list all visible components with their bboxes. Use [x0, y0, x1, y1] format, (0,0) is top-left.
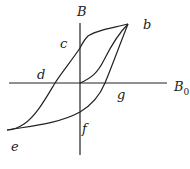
- diagram-graphics: [0, 0, 190, 169]
- initial-magnetization-curve: [80, 24, 128, 83]
- point-label-c: c: [60, 37, 67, 50]
- point-label-f: f: [82, 122, 87, 135]
- point-label-b: b: [143, 18, 151, 31]
- lower-branch-curve: [7, 24, 128, 130]
- point-label-e: e: [11, 140, 19, 153]
- upper-branch-curve: [7, 24, 128, 130]
- point-label-g: g: [117, 88, 125, 101]
- horizontal-axis-label-main: B: [174, 79, 184, 94]
- point-label-d: d: [37, 68, 45, 81]
- vertical-axis-label: B: [77, 5, 87, 18]
- hysteresis-diagram: B B0 b c d e f g: [0, 0, 190, 169]
- horizontal-axis-label-subscript: 0: [184, 87, 190, 97]
- horizontal-axis-label: B0: [174, 80, 189, 97]
